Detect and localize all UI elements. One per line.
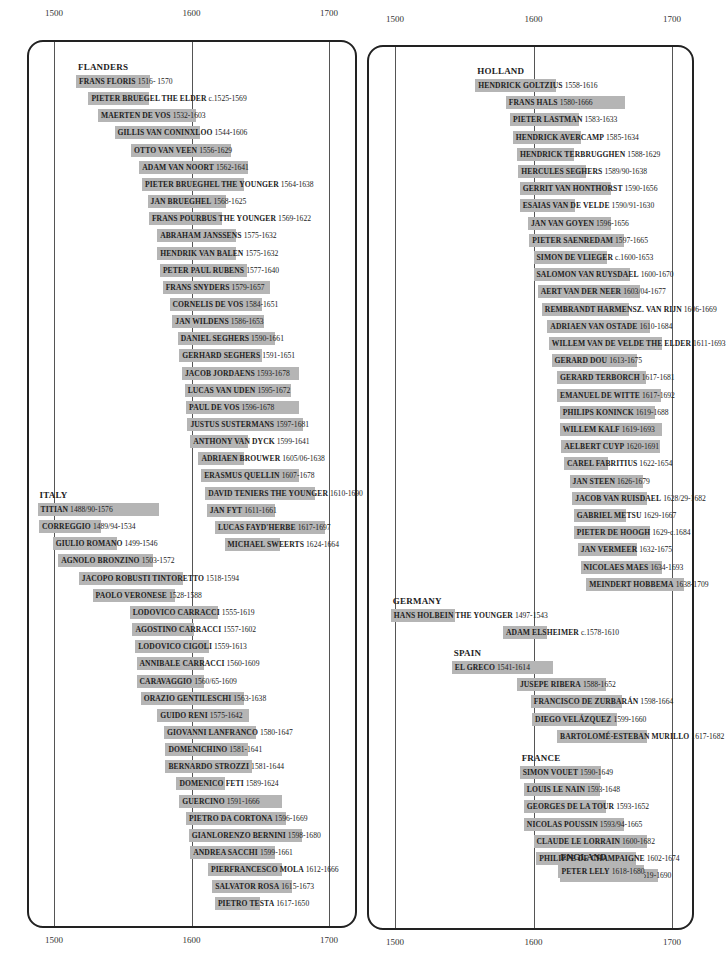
artist-label: HENDRIK VAN BALEN1575-1632 [160, 247, 278, 260]
artist-name: ESAIAS VAN DE VELDE [523, 201, 610, 210]
artist-label: PHILIPS KONINCK1619-1688 [563, 406, 669, 419]
artist-label: AELBERT CUYP1620-1691 [564, 440, 659, 453]
artist-dates: 1617-1692 [642, 391, 675, 400]
artist-name: HERCULES SEGHERS [521, 167, 602, 176]
artist-dates: 1564-1638 [281, 180, 314, 189]
artist-label: JUSTUS SUSTERMANS1597-1681 [190, 418, 309, 431]
artist-label: CAREL FABRITIUS1622-1654 [567, 457, 672, 470]
artist-name: SIMON DE VLIEGER [537, 253, 614, 262]
artist-label: SIMON VOUET1590-1649 [523, 766, 613, 779]
artist-name: ADRIAEN BROUWER [201, 454, 280, 463]
artist-label: JACOB VAN RUISDAEL1628/29-1682 [575, 492, 706, 505]
artist-dates: 1589/90-1638 [604, 167, 647, 176]
artist-name: GERARD DOU [555, 356, 608, 365]
artist-dates: 1599-1660 [613, 715, 646, 724]
axis-tick-bottom-1700: 1700 [663, 937, 681, 947]
artist-name: DAVID TENIERS THE YOUNGER [208, 489, 328, 498]
gridline-1700 [329, 42, 330, 926]
artist-name: FRANS FLORIS [79, 77, 136, 86]
artist-dates: 1629-c.1684 [652, 528, 690, 537]
artist-name: LODOVICO CIGOLI [138, 642, 212, 651]
artist-dates: 1634-1693 [650, 563, 683, 572]
artist-name: PIETER SAENREDAM [532, 236, 613, 245]
artist-dates: 1488/90-1576 [70, 505, 113, 514]
artist-name: DOMENICHINO [168, 745, 227, 754]
artist-label: BERNARDO STROZZI1581-1644 [168, 760, 284, 773]
artist-dates: 1595-1672 [257, 386, 290, 395]
artist-dates: 1613-1675 [609, 356, 642, 365]
artist-label: GILLIS VAN CONINXLOO1544-1606 [118, 126, 248, 139]
artist-label: REMBRANDT HARMENSZ. VAN RIJN1606-1669 [545, 303, 717, 316]
artist-name: AERT VAN DER NEER [541, 287, 622, 296]
artist-label: PIETRO TESTA1617-1650 [218, 897, 309, 910]
artist-name: HENDRICK TERBRUGGHEN [520, 150, 625, 159]
artist-label: FRANCISCO DE ZURBARÁN1598-1664 [534, 695, 674, 708]
artist-label: LUCAS FAYD'HERBE1617-1697 [218, 521, 331, 534]
artist-dates: 1555-1619 [222, 608, 255, 617]
artist-dates: 1580-1666 [560, 98, 593, 107]
axis-tick-top-1600: 1600 [525, 14, 543, 24]
artist-name: PIETRO TESTA [218, 899, 274, 908]
region-heading-france: FRANCE [522, 753, 561, 763]
artist-label: LODOVICO CARRACCI1555-1619 [133, 606, 255, 619]
artist-dates: 1568-1625 [213, 197, 246, 206]
artist-label: JACOB JORDAENS1593-1678 [185, 367, 290, 380]
artist-label: ANTHONY VAN DYCK1599-1641 [193, 435, 310, 448]
gridline-1700 [672, 47, 673, 928]
artist-dates: 1583-1633 [585, 115, 618, 124]
artist-label: DOMENICO FETI1589-1624 [179, 777, 278, 790]
artist-label: OTTO VAN VEEN1556-1629 [134, 144, 232, 157]
artist-dates: 1617-1697 [298, 523, 331, 532]
artist-label: AERT VAN DER NEER1603/04-1677 [541, 285, 666, 298]
artist-name: ANDREA SACCHI [193, 848, 258, 857]
artist-label: FRANS POURBUS THE YOUNGER1569-1622 [152, 212, 311, 225]
artist-label: DAVID TENIERS THE YOUNGER1610-1690 [208, 487, 363, 500]
artist-label: GIULIO ROMANO1499-1546 [56, 537, 158, 550]
artist-label: PIETER SAENREDAM1597-1665 [532, 234, 648, 247]
artist-dates: 1593-1678 [257, 369, 290, 378]
artist-name: JACOB VAN RUISDAEL [575, 494, 661, 503]
artist-dates: 1597-1681 [276, 420, 309, 429]
artist-label: SIMON DE VLIEGERc.1600-1653 [537, 251, 654, 264]
artist-dates: 1629-1667 [643, 511, 676, 520]
artist-label: GERRIT VAN HONTHORST1590-1656 [523, 182, 658, 195]
artist-dates: 1598-1680 [288, 831, 321, 840]
artist-name: EL GRECO [455, 663, 495, 672]
artist-dates: 1593-1648 [587, 785, 620, 794]
artist-label: CLAUDE LE LORRAIN1600-1682 [537, 835, 655, 848]
artist-name: REMBRANDT HARMENSZ. VAN RIJN [545, 305, 682, 314]
artist-name: GILLIS VAN CONINXLOO [118, 128, 213, 137]
artist-dates: 1599-1661 [260, 848, 293, 857]
artist-name: WILLEM VAN DE VELDE THE ELDER [552, 339, 691, 348]
artist-label: WILLEM VAN DE VELDE THE ELDER1611-1693 [552, 337, 726, 350]
artist-label: ADRIAEN BROUWER1605/06-1638 [201, 452, 325, 465]
artist-name: CORREGGIO [42, 522, 91, 531]
artist-dates: 1541-1614 [497, 663, 530, 672]
artist-name: ORAZIO GENTILESCHI [144, 694, 232, 703]
artist-label: ERASMUS QUELLIN1607-1678 [204, 469, 314, 482]
artist-dates: 1518-1594 [206, 574, 239, 583]
artist-label: BARTOLOMÉ-ESTEBAN MURILLO1617-1682 [560, 730, 724, 743]
artist-dates: 1596-1669 [275, 814, 308, 823]
artist-label: ESAIAS VAN DE VELDE1590/91-1630 [523, 199, 655, 212]
artist-label: PIETER LASTMAN1583-1633 [513, 113, 617, 126]
artist-label: HANS HOLBEIN THE YOUNGER1497-1543 [394, 609, 548, 622]
artist-dates: 1560/65-1609 [194, 677, 237, 686]
artist-dates: 1532-1603 [173, 111, 206, 120]
artist-label: JACOPO ROBUSTI TINTORETTO1518-1594 [82, 572, 239, 585]
artist-name: SALOMON VAN RUYSDAEL [537, 270, 639, 279]
artist-dates: 1622-1654 [639, 459, 672, 468]
artist-name: JAN WILDENS [175, 317, 229, 326]
artist-dates: 1610-1690 [330, 489, 363, 498]
artist-dates: 1588-1629 [627, 150, 660, 159]
region-heading-spain: SPAIN [454, 648, 481, 658]
artist-label: PAOLO VERONESE1528-1588 [96, 589, 202, 602]
artist-name: ERASMUS QUELLIN [204, 471, 280, 480]
artist-name: JACOB JORDAENS [185, 369, 255, 378]
artist-label: ABRAHAM JANSSENS1575-1632 [160, 229, 276, 242]
artist-name: PIETER BRUEGHEL THE YOUNGER [145, 180, 279, 189]
artist-dates: 1591-1666 [227, 797, 260, 806]
artist-dates: 1489/94-1534 [93, 522, 136, 531]
gridline-1500 [54, 42, 55, 926]
artist-label: GERARD DOU1613-1675 [555, 354, 643, 367]
